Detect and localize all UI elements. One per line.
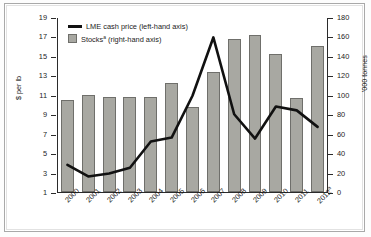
y-axis-left-tick (51, 154, 56, 155)
y-axis-right-tick (328, 154, 333, 155)
y-axis-left-tick (51, 57, 56, 58)
y-axis-right-tick-label: 180 (337, 14, 349, 21)
y-axis-right-tick-label: 160 (337, 33, 349, 40)
y-axis-left-tick (51, 96, 56, 97)
y-axis-right-tick-label: 120 (337, 72, 349, 79)
chart-figure: LME cash price (left-hand axis) Stocksa … (0, 0, 371, 237)
y-axis-right-title: '000 tonnes (360, 55, 369, 92)
y-axis-right-tick-label: 140 (337, 53, 349, 60)
y-axis-right-tick-label: 80 (337, 111, 345, 118)
y-axis-left-tick (51, 76, 56, 77)
y-axis-left-tick (51, 37, 56, 38)
y-axis-right-tick (328, 18, 333, 19)
y-axis-right-tick-label: 20 (337, 170, 345, 177)
line-series-lme-cash-price (57, 18, 328, 193)
y-axis-left-tick-label: 11 (7, 92, 47, 99)
price-polyline (67, 37, 317, 176)
y-axis-left-tick-label: 3 (7, 170, 47, 177)
y-axis-left-tick (51, 135, 56, 136)
y-axis-left-tick (51, 18, 56, 19)
y-axis-left-tick-label: 15 (7, 53, 47, 60)
y-axis-left-tick-label: 1 (7, 189, 47, 196)
y-axis-right-tick (328, 96, 333, 97)
y-axis-left-tick-label: 9 (7, 111, 47, 118)
y-axis-right-tick (328, 37, 333, 38)
y-axis-right-tick-label: 60 (337, 131, 345, 138)
y-axis-left-tick-label: 5 (7, 150, 47, 157)
y-axis-left-tick (51, 115, 56, 116)
y-axis-right-tick-label: 0 (337, 189, 341, 196)
y-axis-left-tick (51, 174, 56, 175)
y-axis-left-tick (51, 193, 56, 194)
y-axis-left-tick-label: 17 (7, 33, 47, 40)
y-axis-right-tick (328, 57, 333, 58)
y-axis-right-tick (328, 76, 333, 77)
y-axis-left-tick-label: 7 (7, 131, 47, 138)
y-axis-right-tick (328, 174, 333, 175)
plot-area: 135791113151719 020406080100120140160180… (57, 18, 328, 193)
chart-frame: LME cash price (left-hand axis) Stocksa … (4, 3, 365, 232)
y-axis-left-tick-label: 13 (7, 72, 47, 79)
y-axis-right-tick (328, 135, 333, 136)
y-axis-right-tick-label: 100 (337, 92, 349, 99)
y-axis-right-tick (328, 115, 333, 116)
y-axis-left-tick-label: 19 (7, 14, 47, 21)
y-axis-right-tick-label: 40 (337, 150, 345, 157)
